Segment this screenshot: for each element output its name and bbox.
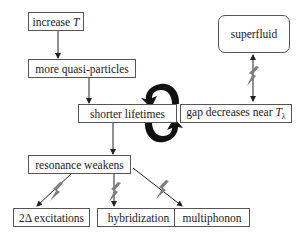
node-label: more quasi-particles bbox=[35, 63, 129, 75]
node-label: resonance weakens bbox=[35, 159, 123, 171]
node-label: multiphonon bbox=[183, 212, 242, 224]
arrow-resonance-to-multiphonon bbox=[133, 168, 182, 206]
node-multiphonon: multiphonon bbox=[174, 208, 250, 227]
node-shorter-lifetimes: shorter lifetimes bbox=[78, 104, 177, 123]
node-label: shorter lifetimes bbox=[90, 108, 165, 120]
node-label: gap decreases near Tλ bbox=[186, 106, 285, 121]
node-label: superfluid bbox=[231, 28, 278, 40]
node-superfluid: superfluid bbox=[218, 15, 290, 53]
node-more-quasi-particles: more quasi-particles bbox=[28, 59, 136, 78]
node-label: 2Δ excitations bbox=[19, 212, 84, 224]
lightning-icon-multiphonon bbox=[156, 180, 169, 199]
node-2delta-excitations: 2Δ excitations bbox=[13, 208, 90, 227]
node-label: increase T bbox=[33, 16, 80, 28]
node-label: hybridization bbox=[108, 212, 169, 224]
node-resonance-weakens: resonance weakens bbox=[28, 155, 131, 174]
lightning-icon-hybridization bbox=[109, 182, 121, 202]
node-gap-decreases: gap decreases near Tλ bbox=[180, 104, 292, 123]
node-increase-t: increase T bbox=[28, 12, 84, 31]
node-hybridization: hybridization bbox=[97, 208, 180, 227]
